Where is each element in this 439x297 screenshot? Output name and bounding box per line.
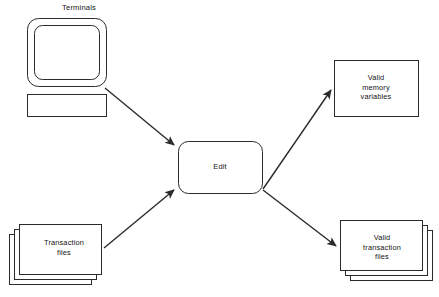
node-edit[interactable]: [179, 142, 263, 194]
node-transaction-files[interactable]: [10, 225, 102, 285]
diagram-canvas: Terminals Transaction files Edit Valid m…: [0, 0, 439, 297]
terminal-keyboard-shape: [28, 95, 107, 117]
terminal-screen-shape: [35, 26, 100, 80]
edit-process-shape: [179, 142, 263, 194]
flow-diagram-svg: [0, 0, 439, 297]
terminals-caption: Terminals: [34, 3, 124, 13]
transaction-files-sheet-front: [20, 225, 102, 275]
valid-memory-variables-shape: [335, 61, 419, 117]
arrow-transaction-to-edit: [104, 190, 174, 248]
arrow-edit-to-valid-transaction: [263, 190, 336, 246]
valid-transaction-files-sheet-front: [341, 221, 423, 271]
arrow-edit-to-valid-memory: [263, 90, 331, 189]
node-terminal[interactable]: [28, 19, 107, 117]
node-valid-memory-variables[interactable]: [335, 61, 419, 117]
arrow-terminal-to-edit: [105, 88, 174, 145]
node-valid-transaction-files[interactable]: [341, 221, 433, 281]
